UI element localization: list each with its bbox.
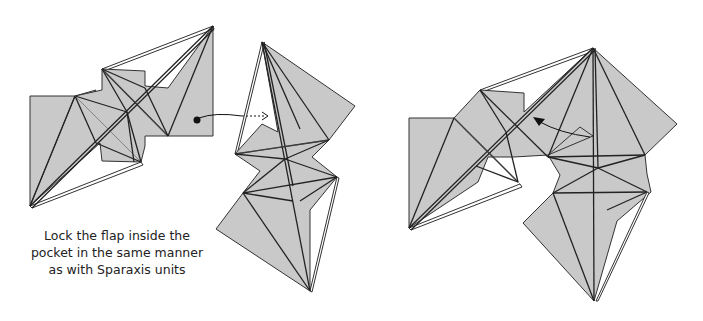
joined-units xyxy=(409,48,677,301)
caption-line-2: pocket in the same manner xyxy=(22,244,212,261)
caption-line-3: as with Sparaxis units xyxy=(22,261,212,278)
left-unit-b xyxy=(216,42,355,292)
caption-line-1: Lock the flap inside the xyxy=(22,227,212,244)
instruction-caption: Lock the flap inside the pocket in the s… xyxy=(22,227,212,278)
left-unit-a xyxy=(30,26,268,208)
